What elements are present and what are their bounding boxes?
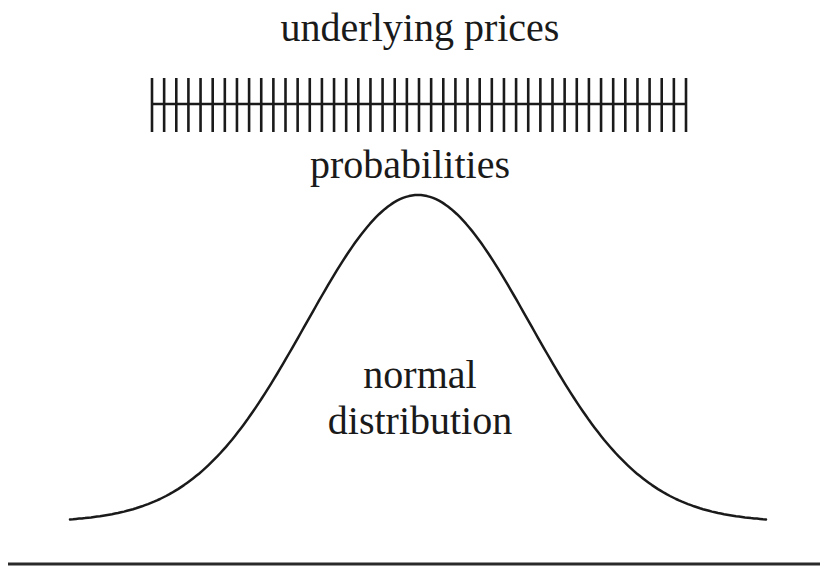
curve-label-line-1: normal bbox=[300, 352, 540, 398]
normal-distribution-label: normal distribution bbox=[300, 352, 540, 444]
diagram-canvas bbox=[0, 0, 820, 579]
probabilities-label: probabilities bbox=[0, 141, 820, 189]
price-tick-scale bbox=[152, 78, 686, 132]
curve-label-line-2: distribution bbox=[300, 398, 540, 444]
